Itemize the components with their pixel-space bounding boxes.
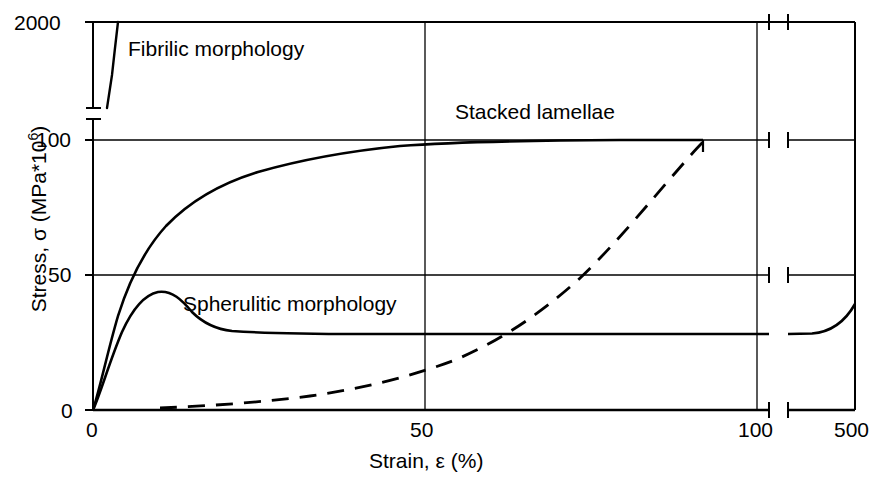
y-axis-title: Stress, σ (MPa*106) (27, 126, 50, 312)
y-axis-title-text: Stress, σ (MPa*10 (27, 141, 50, 313)
series-fibrilic-morphology (107, 22, 118, 108)
x-axis-break-marks (769, 14, 788, 418)
y-tick-label-0: 0 (61, 400, 73, 421)
annotation-fibrilic-morphology: Fibrilic morphology (128, 38, 304, 59)
x-axis-title: Strain, ε (%) (369, 450, 483, 471)
annotation-spherulitic-morphology: Spherulitic morphology (183, 293, 397, 314)
y-tick-label-50: 50 (48, 264, 71, 285)
gridlines-horizontal (93, 140, 855, 275)
y-axis-ticks (85, 22, 93, 410)
x-tick-label-50: 50 (410, 419, 433, 440)
y-axis-title-exponent: 6 (25, 133, 41, 141)
x-tick-label-0: 0 (86, 419, 98, 440)
stress-strain-chart: Fibrilic morphology Stacked lamellae Sph… (0, 0, 887, 483)
y-axis-title-wrapper: Stress, σ (MPa*106) (26, 89, 50, 349)
upper-panel-frame (93, 22, 855, 108)
x-tick-label-500: 500 (834, 419, 869, 440)
annotation-stacked-lamellae: Stacked lamellae (455, 101, 615, 122)
y-tick-label-2000: 2000 (14, 12, 61, 33)
x-tick-label-100: 100 (738, 419, 773, 440)
series-spherulitic-morphology-right (788, 304, 855, 334)
y-axis-title-close: ) (27, 126, 50, 133)
plot-area (0, 0, 887, 483)
y-axis-break-marks (86, 108, 101, 119)
